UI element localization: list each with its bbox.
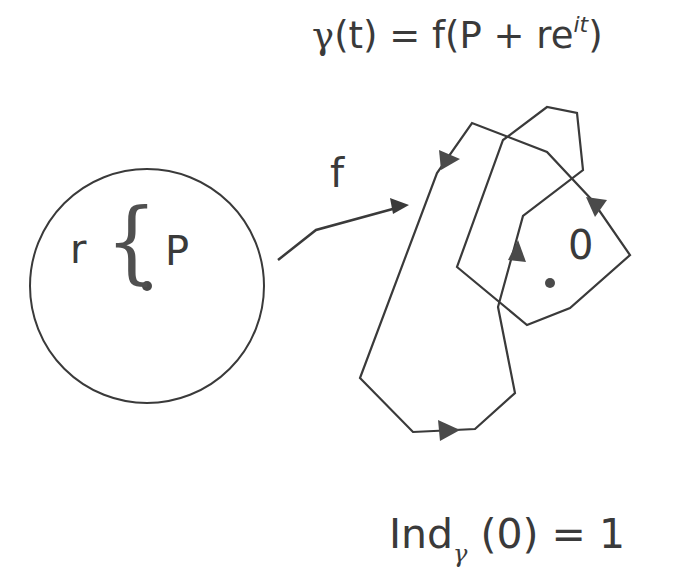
winding-number-formula: Indγ (0) = 1 xyxy=(389,510,625,558)
image-curve-gamma xyxy=(360,107,630,432)
map-arrow xyxy=(278,207,400,260)
origin-label: 0 xyxy=(568,222,593,268)
map-label-f: f xyxy=(330,150,344,196)
radius-label: r xyxy=(70,226,86,272)
gamma-symbol: γ xyxy=(312,14,334,57)
center-label: P xyxy=(165,228,189,274)
map-arrow-head-icon xyxy=(390,198,409,214)
direction-arrow-icon xyxy=(508,240,526,262)
ind-subscript: γ xyxy=(453,540,467,568)
origin-point xyxy=(545,278,555,288)
direction-arrow-icon xyxy=(439,150,460,170)
ind-rest: (0) = 1 xyxy=(467,510,625,558)
diagram-canvas xyxy=(0,0,680,588)
formula-close: ) xyxy=(588,14,602,57)
ind-text: Ind xyxy=(389,510,453,558)
formula-exponent: it xyxy=(574,12,589,37)
curve-definition-formula: γ(t) = f(P + reit) xyxy=(312,14,603,57)
direction-arrow-icon xyxy=(586,197,607,217)
direction-arrow-icon xyxy=(438,420,460,441)
radius-brace: { xyxy=(106,188,158,293)
formula-body: (t) = f(P + re xyxy=(334,14,573,57)
